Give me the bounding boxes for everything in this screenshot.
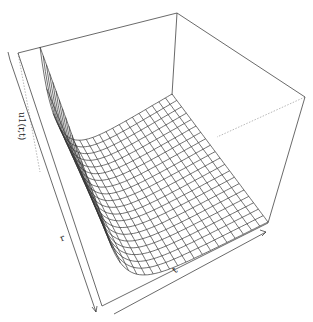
z-axis-label: u1(r,t) <box>17 112 27 140</box>
surface-plot <box>0 0 313 322</box>
surface-mesh <box>40 47 268 275</box>
